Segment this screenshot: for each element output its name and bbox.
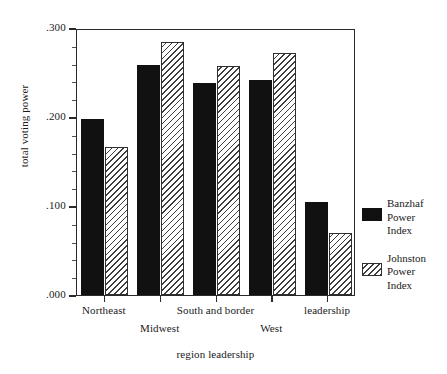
legend-label-line: Index [387, 279, 426, 293]
y-tick-mark [69, 28, 76, 29]
legend-label-line: Banzhaf [387, 197, 424, 211]
legend-swatch-icon [362, 208, 382, 221]
legend-label-line: Power [387, 211, 424, 225]
legend-label: JohnstonPowerIndex [387, 252, 426, 293]
y-tick-label: .300 [46, 21, 66, 33]
x-axis-label: Northeast [82, 304, 126, 316]
x-tick-mark [160, 296, 161, 302]
x-axis-label: leadership [304, 304, 350, 316]
y-tick-label: .200 [46, 110, 66, 122]
plot-area [76, 29, 355, 296]
bar-midwest-johnston [161, 42, 184, 295]
y-tick-mark [69, 206, 76, 207]
x-axis-label: West [260, 322, 282, 334]
y-axis: .000.100.200.300 [0, 29, 76, 296]
bar-northeast-banzhaf [81, 119, 104, 295]
y-tick-label: .000 [46, 288, 66, 300]
bar-northeast-johnston [105, 147, 128, 295]
bar-south-and-border-johnston [217, 66, 240, 295]
bar-west-banzhaf [249, 80, 272, 295]
legend-label-line: Johnston [387, 252, 426, 266]
x-axis-label: Midwest [140, 322, 179, 334]
legend-swatch-icon [362, 263, 382, 276]
x-tick-mark [216, 296, 217, 302]
legend-label-line: Power [387, 265, 426, 279]
x-tick-mark [271, 296, 272, 302]
bar-west-johnston [273, 53, 296, 295]
bar-chart-figure: total voting power .000.100.200.300 Nort… [0, 0, 447, 374]
bar-midwest-banzhaf [137, 65, 160, 295]
legend-label: BanzhafPowerIndex [387, 197, 424, 238]
legend-entry-johnston: JohnstonPowerIndex [362, 252, 447, 293]
y-tick-label: .100 [46, 199, 66, 211]
legend-entry-banzhaf: BanzhafPowerIndex [362, 197, 447, 238]
legend-label-line: Index [387, 224, 424, 238]
y-tick-mark [69, 295, 76, 296]
bar-leadership-johnston [329, 233, 352, 295]
bar-south-and-border-banzhaf [193, 83, 216, 295]
x-axis-label: South and border [177, 304, 254, 316]
x-tick-mark [104, 296, 105, 302]
x-axis-title: region leadership [76, 348, 355, 360]
x-tick-mark [327, 296, 328, 302]
bar-leadership-banzhaf [305, 202, 328, 295]
chart-legend: BanzhafPowerIndexJohnstonPowerIndex [362, 197, 447, 306]
x-axis-ticks [76, 296, 355, 304]
y-tick-mark [69, 117, 76, 118]
